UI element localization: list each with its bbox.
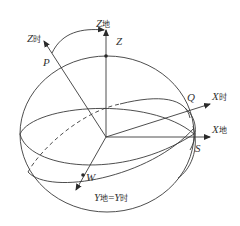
sphere-outline xyxy=(20,56,194,212)
label-x-shi: X时 xyxy=(212,91,227,102)
w-point xyxy=(81,173,85,177)
label-z: Z xyxy=(116,36,122,47)
horizon-front xyxy=(20,134,194,165)
meridian-arc xyxy=(178,126,195,178)
label-w: W xyxy=(86,172,95,183)
label-y-equation: Y地=Y时 xyxy=(94,192,128,203)
equator-front xyxy=(28,128,194,183)
label-z-di: Z地 xyxy=(96,18,110,29)
label-q: Q xyxy=(187,92,195,103)
rotation-arc xyxy=(52,30,104,53)
label-p: P xyxy=(43,57,50,68)
z-shi-axis-line xyxy=(44,41,106,137)
horizon-back xyxy=(20,108,194,134)
label-z-shi: Z时 xyxy=(27,33,41,44)
zenith-point xyxy=(104,54,108,58)
label-s: S xyxy=(195,143,201,154)
label-x-di: X地 xyxy=(212,124,227,135)
